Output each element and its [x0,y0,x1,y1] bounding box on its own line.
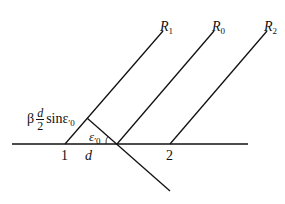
beta-symbol: β [27,111,34,126]
label-r0: R0 [212,20,225,36]
perpendicular-line [87,118,170,191]
wave-reflection-diagram: R1 R0 R2 βd2sinε′0 ε′0 1 d 2 [0,0,285,204]
angle-label: ε′0 [89,130,101,146]
ray-r2 [170,31,267,144]
fraction: d2 [36,107,44,132]
ray-r1 [65,31,163,144]
path-difference-label: βd2sinε′0 [27,107,75,132]
ray-r0 [117,31,214,144]
distance-d-label: d [85,149,92,163]
sin-term: sinε [46,111,68,126]
label-r1: R1 [160,20,173,36]
label-r2: R2 [264,20,277,36]
diagram-lines [0,0,285,204]
point-1-label: 1 [61,149,68,163]
angle-arc [106,136,108,144]
point-2-label: 2 [166,149,173,163]
